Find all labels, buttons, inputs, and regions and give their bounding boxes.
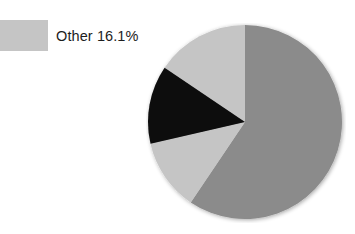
pie-slice-group (148, 25, 342, 219)
pie-svg (146, 23, 346, 223)
chart-legend: Other 16.1% (0, 20, 139, 51)
legend-swatch-other (0, 20, 48, 51)
pie-graphic (146, 23, 346, 223)
pie-chart-figure: Other 16.1% (0, 0, 355, 234)
legend-label-other: Other 16.1% (56, 28, 139, 44)
